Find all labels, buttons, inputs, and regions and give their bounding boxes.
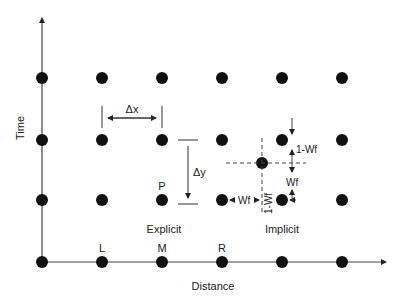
- wf-horizontal-label: Wf: [238, 195, 250, 206]
- implicit-label: Implicit: [265, 223, 299, 235]
- wf-right-label: Wf: [286, 177, 298, 188]
- grid-dots: [36, 72, 348, 268]
- x-axis-label: Distance: [192, 280, 235, 292]
- one-minus-wf-right-label: 1-Wf: [296, 144, 317, 155]
- explicit-label: Explicit: [147, 223, 182, 235]
- point-r-label: R: [218, 242, 226, 254]
- delta-y-label: Δy: [193, 166, 206, 178]
- one-minus-wf-vertical-label: 1-Wf: [263, 193, 274, 214]
- axes: [42, 18, 386, 262]
- y-axis-label: Time: [14, 116, 26, 140]
- point-p-label: P: [158, 180, 165, 192]
- point-l-label: L: [99, 242, 105, 254]
- point-m-label: M: [157, 242, 166, 254]
- delta-x-label: Δx: [126, 103, 139, 115]
- finite-difference-grid-diagram: Δx Δy 1-Wf Wf Wf 1-Wf P L M R Explicit I…: [0, 0, 400, 305]
